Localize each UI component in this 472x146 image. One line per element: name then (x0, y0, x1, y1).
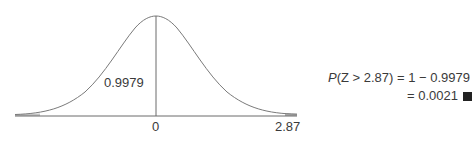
tick-label-z: 2.87 (275, 119, 300, 134)
probability-symbol: P (328, 70, 337, 85)
formula-expression: (Z > 2.87) = 1 − 0.9979 (337, 70, 470, 85)
qed-square-icon (463, 92, 472, 101)
tick-label-zero: 0 (152, 119, 159, 134)
formula-result: = 0.0021 (407, 88, 458, 103)
probability-formula-line1: P(Z > 2.87) = 1 − 0.9979 (328, 70, 470, 85)
probability-formula-line2: = 0.0021 (407, 88, 472, 103)
area-label: 0.9979 (104, 75, 144, 90)
